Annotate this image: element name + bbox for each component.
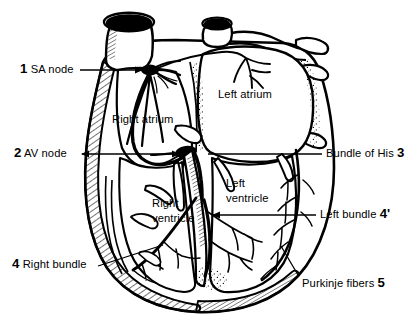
heart-outline-group	[80, 13, 334, 312]
callout-right-bundle[interactable]: 4 Right bundle	[12, 257, 87, 271]
chamber-label-left-atrium: Left atrium	[218, 87, 272, 102]
callout-number-bundle-of-his: 3	[397, 145, 404, 160]
callout-label-sa-node: SA node	[31, 63, 74, 75]
callout-av-node[interactable]: 2 AV node	[14, 146, 67, 160]
chamber-label-right-atrium: Right atrium	[112, 112, 174, 127]
chamber-label-right-ventricle-line1: Right	[152, 196, 216, 211]
callout-number-left-bundle: 4'	[380, 206, 391, 221]
callout-purkinje-fibers[interactable]: Purkinje fibers 5	[302, 276, 385, 290]
aorta-lumen	[205, 19, 229, 28]
callout-bundle-of-his[interactable]: Bundle of His 3	[326, 146, 405, 160]
callout-label-left-bundle: Left bundle	[320, 208, 376, 220]
chamber-label-left-ventricle-line1: Left	[226, 176, 290, 191]
left-atrium-cavity	[198, 47, 313, 163]
callout-number-av-node: 2	[14, 145, 21, 160]
callout-label-av-node: AV node	[24, 147, 67, 159]
callout-label-bundle-of-his: Bundle of His	[326, 147, 394, 159]
callout-number-purkinje-fibers: 5	[378, 275, 385, 290]
chamber-label-left-ventricle-line2: ventricle	[226, 191, 290, 206]
callout-label-right-bundle: Right bundle	[23, 258, 87, 270]
callout-number-sa-node: 1	[20, 61, 27, 76]
chamber-label-right-ventricle-line2: ventricle	[152, 211, 216, 226]
callout-number-right-bundle: 4	[12, 256, 19, 271]
chamber-label-right-ventricle: Right ventricle	[152, 196, 216, 226]
chamber-label-left-ventricle: Left ventricle	[226, 176, 290, 206]
heart-conduction-diagram: 1 SA node 2 AV node Bundle of His 3 4 Ri…	[0, 0, 418, 332]
callout-sa-node[interactable]: 1 SA node	[20, 62, 74, 76]
callout-label-purkinje-fibers: Purkinje fibers	[302, 277, 374, 289]
callout-left-bundle[interactable]: Left bundle 4'	[320, 207, 390, 221]
